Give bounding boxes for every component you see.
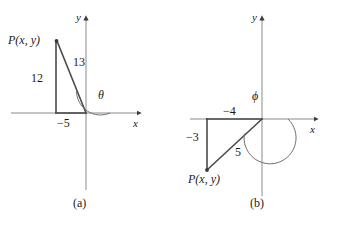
angle-label-phi: ϕ — [252, 90, 258, 102]
hypotenuse-label-b: 5 — [235, 146, 241, 158]
panel-a-graphics — [0, 0, 339, 226]
vertical-leg-label-a: 12 — [31, 72, 43, 84]
point-label-a: P(x, y) — [8, 34, 40, 46]
trigonometry-figure: P(x, y) 12 13 −5 θ x y (a) −4 −3 5 ϕ P(x… — [0, 0, 339, 226]
panel-a-triangle — [55, 39, 87, 113]
x-axis-label-a: x — [133, 118, 138, 129]
caption-a: (a) — [73, 197, 86, 209]
y-axis-label-a: y — [76, 12, 81, 23]
terminal-point-a — [55, 39, 59, 43]
angle-label-theta: θ — [98, 89, 104, 101]
x-axis-label-b: x — [310, 124, 315, 135]
vertical-leg-label-b: −3 — [186, 131, 199, 143]
horizontal-leg-label-b: −4 — [223, 105, 236, 117]
hypotenuse-label-a: 13 — [73, 56, 85, 68]
y-axis-label-b: y — [252, 12, 257, 23]
caption-b: (b) — [250, 197, 264, 209]
hypotenuse-a — [57, 41, 86, 113]
horizontal-leg-label-a: −5 — [57, 117, 70, 129]
point-label-b: P(x, y) — [188, 173, 220, 185]
angle-arc-phi — [244, 119, 296, 164]
